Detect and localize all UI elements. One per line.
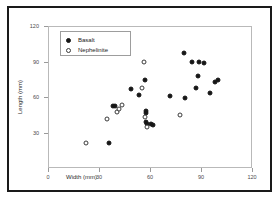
data-point-nephelinite[interactable] [116,107,121,112]
data-point-basalt[interactable] [182,95,187,100]
data-point-basalt[interactable] [202,61,207,66]
data-point-basalt[interactable] [207,91,212,96]
data-point-nephelinite[interactable] [104,116,109,121]
x-tick-label: 90 [198,174,204,180]
x-tick-label: 0 [46,174,49,180]
x-tick-mark [252,168,253,172]
data-point-nephelinite[interactable] [119,102,124,107]
x-tick-mark [48,168,49,172]
x-tick-label: 120 [247,174,256,180]
x-tick-mark [150,168,151,172]
y-tick-mark [44,62,48,63]
y-tick-label: 60 [33,94,39,100]
y-tick-label: 30 [33,130,39,136]
y-tick-mark [44,26,48,27]
data-point-basalt[interactable] [189,60,194,65]
y-tick-label: 120 [30,23,39,29]
scatter-plot-figure: Length (mm) Width (mm) 0306090120 306090… [0,0,280,203]
data-point-basalt[interactable] [150,122,155,127]
legend-item-basalt[interactable]: Basalt [66,35,130,45]
x-axis-title: Width (mm) [66,174,97,180]
data-point-basalt[interactable] [107,140,112,145]
data-point-basalt[interactable] [193,86,198,91]
x-tick-mark [201,168,202,172]
y-tick-label: 90 [33,59,39,65]
data-point-basalt[interactable] [216,77,221,82]
legend-item-nephelinite[interactable]: Nephelinite [66,45,130,55]
open-circle-icon [66,48,71,53]
x-tick-mark [99,168,100,172]
data-point-basalt[interactable] [142,77,147,82]
data-point-basalt[interactable] [167,94,172,99]
data-point-basalt[interactable] [182,51,187,56]
filled-circle-icon [66,38,71,43]
data-point-nephelinite[interactable] [142,59,147,64]
x-tick-label: 30 [96,174,102,180]
legend-label: Nephelinite [78,47,108,53]
x-tick-label: 60 [147,174,153,180]
data-point-nephelinite[interactable] [145,125,150,130]
data-point-nephelinite[interactable] [84,141,89,146]
y-axis-title: Length (mm) [17,80,23,114]
data-point-nephelinite[interactable] [177,113,182,118]
y-tick-mark [44,97,48,98]
data-point-basalt[interactable] [129,87,134,92]
data-point-nephelinite[interactable] [139,86,144,91]
legend: Basalt Nephelinite [60,31,131,56]
data-point-nephelinite[interactable] [142,115,147,120]
data-point-basalt[interactable] [136,93,141,98]
y-tick-mark [44,133,48,134]
legend-label: Basalt [78,37,95,43]
data-point-basalt[interactable] [195,74,200,79]
